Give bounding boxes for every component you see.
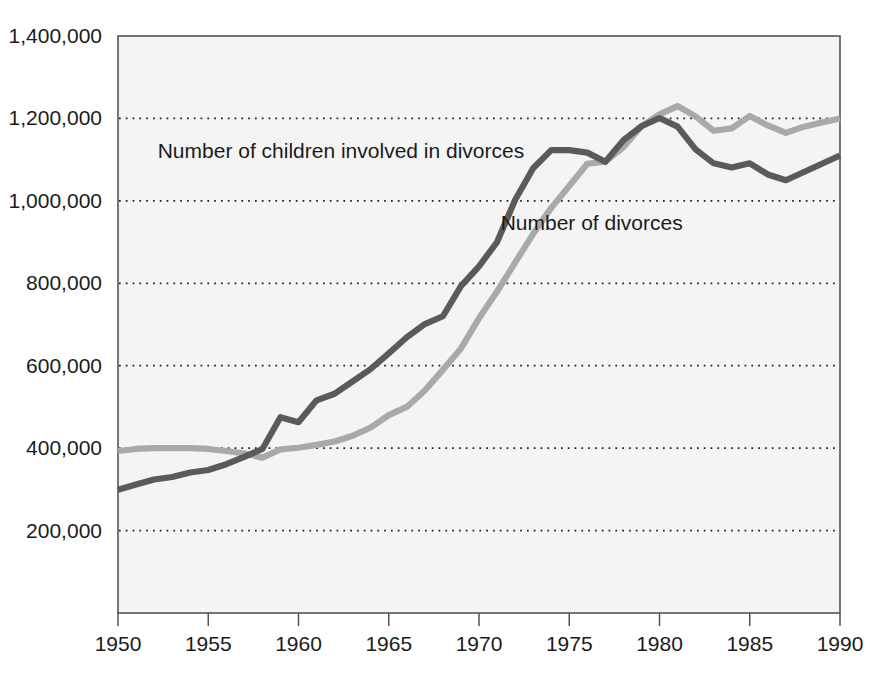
x-tick-label: 1960 — [275, 632, 322, 655]
series-label: Number of divorces — [501, 211, 683, 234]
y-axis-tick-labels: 200,000400,000600,000800,0001,000,0001,2… — [9, 24, 102, 542]
plot-background — [118, 36, 840, 613]
y-tick-label: 200,000 — [26, 519, 102, 542]
x-axis-tick-labels: 195019551960196519701975198019851990 — [95, 632, 864, 655]
x-tick-label: 1965 — [365, 632, 412, 655]
series-label: Number of children involved in divorces — [158, 139, 525, 162]
x-tick-label: 1950 — [95, 632, 142, 655]
y-tick-label: 1,000,000 — [9, 189, 102, 212]
chart-canvas: 200,000400,000600,000800,0001,000,0001,2… — [0, 0, 877, 686]
x-axis-tickmarks — [118, 613, 840, 626]
y-tick-label: 600,000 — [26, 354, 102, 377]
y-tick-label: 800,000 — [26, 271, 102, 294]
x-tick-label: 1990 — [817, 632, 864, 655]
x-tick-label: 1980 — [636, 632, 683, 655]
y-tick-label: 1,400,000 — [9, 24, 102, 47]
x-tick-label: 1955 — [185, 632, 232, 655]
x-tick-label: 1985 — [726, 632, 773, 655]
divorce-statistics-chart: 200,000400,000600,000800,0001,000,0001,2… — [0, 0, 877, 686]
x-tick-label: 1970 — [456, 632, 503, 655]
x-tick-label: 1975 — [546, 632, 593, 655]
y-tick-label: 1,200,000 — [9, 106, 102, 129]
y-tick-label: 400,000 — [26, 436, 102, 459]
